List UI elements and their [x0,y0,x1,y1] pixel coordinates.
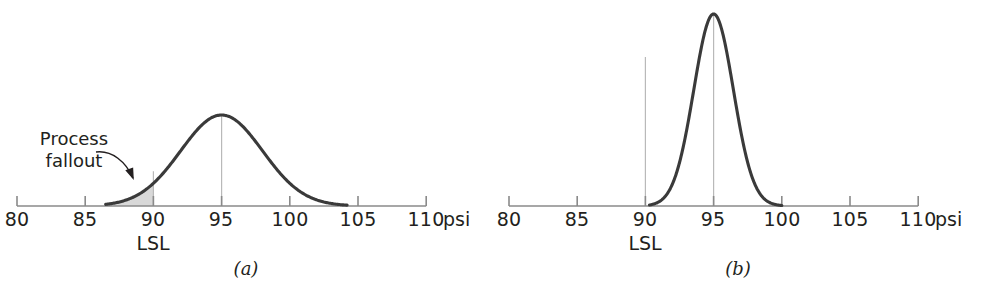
axis-unit-label: psi [935,208,962,230]
panel-a-axis [17,196,426,206]
process-capability-figure: Process fallout 80 85 90 95 100 105 110 … [0,0,984,293]
panel-b-axis [509,196,918,206]
panel-a: Process fallout 80 85 90 95 100 105 110 … [0,0,492,293]
tick-label-80: 80 [0,208,47,230]
tick-label-105: 105 [820,208,880,230]
panel-b-caption: (b) [492,258,984,279]
tick-label-85: 85 [55,208,115,230]
panel-b-distribution-curve [649,14,781,206]
lsl-label: LSL [605,232,685,254]
tick-label-95: 95 [191,208,251,230]
lsl-label: LSL [113,232,193,254]
tick-label-105: 105 [328,208,388,230]
tick-label-85: 85 [547,208,607,230]
tick-label-90: 90 [615,208,675,230]
process-fallout-annotation: Process fallout [18,128,130,172]
panel-a-distribution-curve [106,115,347,205]
panel-b-plot [492,0,984,293]
panel-a-gridlines [153,115,221,206]
tick-label-100: 100 [260,208,320,230]
tick-label-90: 90 [123,208,183,230]
panel-a-caption: (a) [0,258,492,279]
tick-label-80: 80 [479,208,539,230]
tick-label-100: 100 [752,208,812,230]
axis-unit-label: psi [443,208,470,230]
panel-b: 80 85 90 95 100 105 110 psi LSL (b) [492,0,984,293]
tick-label-95: 95 [683,208,743,230]
